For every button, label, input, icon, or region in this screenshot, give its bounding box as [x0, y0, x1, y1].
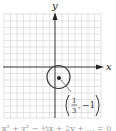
y-axis-label: y: [51, 0, 58, 11]
coordinate-plane-figure: x y 1 3 , −1: [0, 0, 116, 131]
fraction-numerator: 1: [72, 97, 76, 105]
fraction-denominator: 3: [72, 107, 76, 115]
y-coordinate: −1: [82, 100, 95, 110]
center-point: [57, 76, 61, 80]
x-axis-arrow-icon: [96, 65, 104, 70]
equation-caption: x² + y² − ⅔x + 2y + … = 0: [2, 122, 114, 131]
comma: ,: [78, 101, 81, 110]
x-axis-label: x: [106, 61, 112, 72]
y-axis-arrow-icon: [53, 12, 58, 20]
